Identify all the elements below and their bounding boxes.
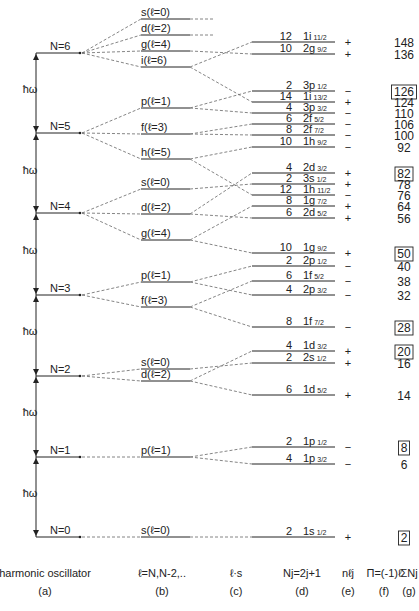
shell-model-diagram: ħωħωħωħωħωħω N=6N=5N=4N=3N=2N=1N=0 s(ℓ=0…	[0, 0, 419, 611]
nj-degeneracy: 4	[286, 452, 292, 464]
parity-sign: +	[345, 247, 351, 259]
l-level-label: h(ℓ=5)	[141, 146, 171, 158]
nj-degeneracy: 6	[286, 383, 292, 395]
nlj-label: 1d5/2	[303, 383, 327, 395]
l-level-label: d(ℓ=2)	[141, 368, 171, 380]
parity-sign: −	[345, 321, 351, 333]
cumulative-count: 32	[397, 289, 411, 303]
nlj-label: 2s1/2	[303, 351, 326, 363]
nj-degeneracy: 10	[280, 135, 292, 147]
nlj-label: 1i11/2	[303, 30, 327, 42]
cumulative-count: 38	[397, 275, 411, 289]
nj-degeneracy: 8	[286, 123, 292, 135]
column-header: ΣNj	[400, 567, 417, 579]
oscillator-levels: N=6N=5N=4N=3N=2N=1N=0	[36, 40, 81, 538]
parity-sign: −	[345, 458, 351, 470]
nlj-label: 2d5/2	[303, 206, 327, 218]
parity-sign: +	[345, 200, 351, 212]
arrow-down-icon	[33, 530, 39, 536]
parity-sign: +	[345, 345, 351, 357]
hbar-omega-label: ħω	[23, 406, 38, 418]
arrow-up-icon	[33, 458, 39, 464]
l-level-label: s(ℓ=0)	[141, 176, 170, 188]
parity-sign: −	[345, 289, 351, 301]
arrow-up-icon	[33, 134, 39, 140]
parity-sign: −	[345, 441, 351, 453]
hbar-omega-label: ħω	[23, 244, 38, 256]
arrow-down-icon	[33, 126, 39, 132]
nlj-label: 1g7/2	[303, 194, 327, 206]
l-level-label: f(ℓ=3)	[141, 121, 167, 133]
column-header: ℓ·s	[230, 567, 243, 579]
l-level-label: s(ℓ=0)	[141, 356, 170, 368]
nlj-label: 1h9/2	[303, 135, 327, 147]
parity-sign: +	[345, 389, 351, 401]
nlj-label: 2g9/2	[303, 42, 327, 54]
nlj-label: 2f7/2	[303, 123, 324, 135]
oscillator-level-label: N=2	[50, 363, 71, 375]
nj-degeneracy: 4	[286, 283, 292, 295]
nj-degeneracy: 2	[286, 525, 292, 537]
l-level-label: p(ℓ=1)	[141, 444, 171, 456]
l-level-label: p(ℓ=1)	[141, 269, 171, 281]
cumulative-count: 92	[397, 141, 411, 155]
l-level-label: p(ℓ=1)	[141, 95, 171, 107]
nlj-label: 1f7/2	[303, 315, 324, 327]
l-level-label: g(ℓ=4)	[141, 38, 171, 50]
nlj-label: 1d3/2	[303, 339, 327, 351]
parity-sign: −	[345, 275, 351, 287]
arrow-down-icon	[33, 206, 39, 212]
nlj-label: 1p3/2	[303, 452, 327, 464]
magic-number: 28	[397, 321, 411, 335]
nj-degeneracy: 2	[286, 254, 292, 266]
l-level-label: s(ℓ=0)	[141, 524, 170, 536]
nlj-label: 1g9/2	[303, 241, 327, 253]
cumulative-count: 40	[397, 260, 411, 274]
column-legend-item: harmonic oscillator(a)	[0, 567, 105, 597]
column-legend-item: ΣNj(g)	[349, 567, 419, 597]
arrow-down-icon	[33, 369, 39, 375]
arrow-up-icon	[33, 296, 39, 302]
magic-number: 2	[401, 531, 408, 545]
column-key: (a)	[0, 585, 105, 597]
hbar-omega-label: ħω	[23, 164, 38, 176]
arrow-down-icon	[33, 288, 39, 294]
orbital-l-levels: s(ℓ=0)d(ℓ=2)g(ℓ=4)i(ℓ=6)p(ℓ=1)f(ℓ=3)h(ℓ=…	[141, 6, 190, 537]
parity-sign: −	[345, 141, 351, 153]
parity-sign: +	[345, 48, 351, 60]
spin-orbit-levels: 121i11/2+148102g9/2+13623p1/2−126141i13/…	[252, 30, 417, 545]
oscillator-level-label: N=6	[50, 40, 71, 52]
hbar-omega-label: ħω	[23, 325, 38, 337]
nj-degeneracy: 6	[286, 206, 292, 218]
oscillator-level-label: N=0	[50, 524, 71, 536]
oscillator-level-label: N=3	[50, 282, 71, 294]
magic-number: 50	[397, 247, 411, 261]
nj-degeneracy: 8	[286, 194, 292, 206]
nj-degeneracy: 10	[280, 42, 292, 54]
nlj-label: 2p1/2	[303, 254, 327, 266]
cumulative-count: 14	[397, 389, 411, 403]
nlj-label: 1f5/2	[303, 269, 324, 281]
parity-sign: +	[345, 357, 351, 369]
parity-sign: +	[345, 531, 351, 543]
arrow-up-icon	[33, 54, 39, 60]
cumulative-count: 56	[397, 212, 411, 226]
l-level-label: f(ℓ=3)	[141, 294, 167, 306]
nj-degeneracy: 10	[280, 241, 292, 253]
parity-sign: +	[345, 36, 351, 48]
nj-degeneracy: 4	[286, 339, 292, 351]
l-level-label: d(ℓ=2)	[141, 22, 171, 34]
magic-number: 8	[401, 441, 408, 455]
oscillator-level-label: N=4	[50, 200, 71, 212]
l-level-label: s(ℓ=0)	[141, 6, 170, 18]
oscillator-level-label: N=5	[50, 120, 71, 132]
nlj-label: 1p1/2	[303, 435, 327, 447]
nj-degeneracy: 8	[286, 315, 292, 327]
arrow-down-icon	[33, 450, 39, 456]
nj-degeneracy: 2	[286, 351, 292, 363]
nj-degeneracy: 2	[286, 435, 292, 447]
parity-sign: +	[345, 212, 351, 224]
l-level-label: i(ℓ=6)	[141, 54, 167, 66]
cumulative-count: 6	[401, 458, 408, 472]
parity-sign: −	[345, 129, 351, 141]
